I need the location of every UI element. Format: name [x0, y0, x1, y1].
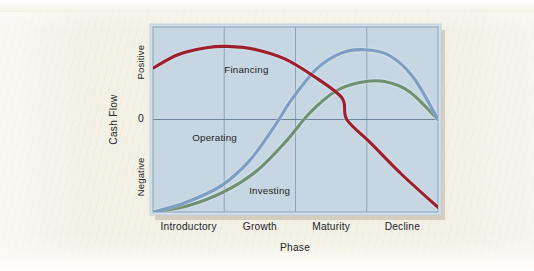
x-tick-decline: Decline	[385, 221, 421, 232]
y-tick-negative: Negative	[135, 157, 146, 196]
cash-flow-life-cycle-chart: FinancingOperatingInvesting Positive0Neg…	[0, 0, 534, 271]
figure-root: FinancingOperatingInvesting Positive0Neg…	[0, 0, 534, 271]
y-tick-labels: Positive0Negative	[135, 45, 146, 196]
x-tick-growth: Growth	[243, 221, 277, 232]
series-label-operating: Operating	[192, 132, 237, 143]
x-tick-introductory: Introductory	[161, 221, 218, 232]
x-axis-title: Phase	[280, 242, 310, 253]
y-tick-positive: Positive	[135, 45, 146, 79]
y-tick-0: 0	[138, 112, 144, 124]
x-tick-labels: IntroductoryGrowthMaturityDecline	[161, 221, 421, 232]
y-axis-title: Cash Flow	[108, 94, 119, 145]
series-label-financing: Financing	[224, 64, 268, 75]
x-tick-maturity: Maturity	[312, 221, 351, 232]
series-label-investing: Investing	[249, 185, 290, 196]
